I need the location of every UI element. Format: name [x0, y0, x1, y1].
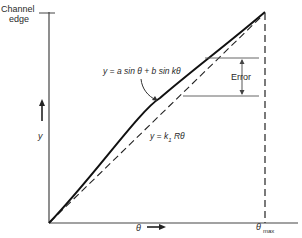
channel-edge-label-line1: Channel [1, 4, 35, 14]
theta-max-label: θmax [256, 222, 274, 234]
theta-max-symbol: θ [256, 222, 261, 232]
channel-edge-label-line2: edge [9, 14, 29, 24]
theta-direction-arrow-head [159, 224, 166, 230]
y-axis-label: y [37, 131, 43, 141]
linear-approximation-line [50, 16, 262, 222]
channel-edge-diagram: Channel edge y θ θmax y = a sin θ + b si… [0, 0, 302, 238]
error-arrow-head-down [240, 90, 245, 95]
curve-equation-label: y = a sin θ + b sin kθ [102, 66, 181, 76]
theta-max-subscript: max [263, 228, 274, 234]
error-label: Error [231, 72, 251, 82]
x-axis-label: θ [136, 223, 141, 233]
linear-equation-label: y = k1 Rθ [149, 131, 185, 143]
y-direction-arrow-head [39, 99, 45, 106]
error-arrow-head-up [240, 59, 245, 64]
linear-equation-prefix: y = k [149, 131, 169, 141]
curve-pointer-arrow [141, 79, 156, 100]
linear-equation-suffix: Rθ [172, 131, 186, 141]
